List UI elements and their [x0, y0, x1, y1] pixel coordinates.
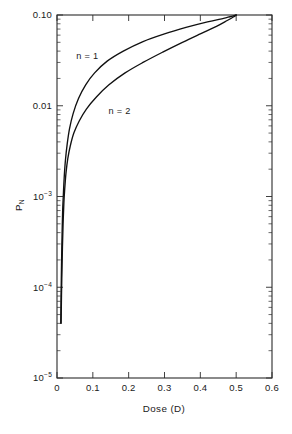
x-tick-label: 0 — [54, 382, 59, 393]
chart-background — [0, 0, 292, 434]
y-tick-label: 0.01 — [33, 100, 52, 111]
series-annotation: n = 1 — [76, 51, 98, 61]
x-tick-label: 0.6 — [265, 382, 279, 393]
x-tick-label: 0.5 — [229, 382, 243, 393]
y-tick-label: 0.10 — [33, 9, 52, 20]
chart-figure: 0.100.0110−310−410−5 00.10.20.30.40.50.6… — [0, 0, 292, 434]
x-tick-label: 0.3 — [158, 382, 172, 393]
x-tick-label: 0.2 — [122, 382, 136, 393]
semilog-plot: 0.100.0110−310−410−5 00.10.20.30.40.50.6… — [0, 0, 292, 434]
x-tick-label: 0.4 — [193, 382, 207, 393]
y-axis-title-subscript: N — [18, 199, 25, 204]
x-tick-label: 0.1 — [86, 382, 100, 393]
series-annotation: n = 2 — [109, 106, 131, 116]
x-axis-title: Dose (D) — [143, 403, 185, 414]
